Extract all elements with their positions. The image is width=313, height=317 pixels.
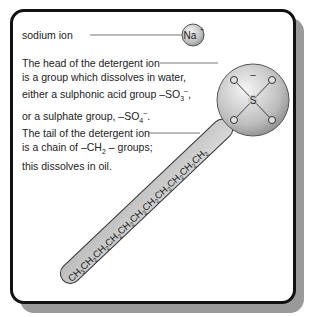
svg-text:+: + [200, 26, 204, 33]
svg-text:S: S [250, 95, 257, 106]
svg-text:Na: Na [184, 30, 197, 41]
svg-text:–: – [250, 69, 256, 80]
tail-chain-text: CH3CH2CH2CH2CH2CH2CH2CH2CH2CH2CH2 [65, 146, 210, 284]
detergent-molecule: CH3CH2CH2CH2CH2CH2CH2CH2CH2CH2CH2 – S Na… [0, 0, 313, 317]
